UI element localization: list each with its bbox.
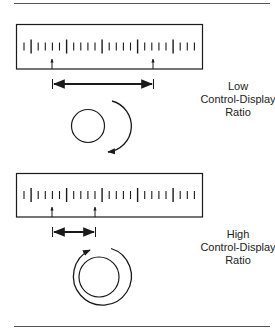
label-line: Ratio [193, 254, 275, 267]
rotation-arrow-icon [108, 101, 131, 152]
label-line: Low [193, 80, 275, 93]
low-ratio-label: Low Control-Display Ratio [193, 80, 275, 119]
high-ratio-scale-display [17, 174, 203, 218]
label-line: Ratio [193, 106, 275, 119]
high-ratio-travel-arrow [53, 227, 96, 237]
knob-circle [72, 110, 105, 143]
low-ratio-knob [72, 101, 132, 152]
scale-ticks [24, 188, 194, 202]
label-line: Control-Display [193, 93, 275, 106]
control-display-ratio-diagram [0, 0, 275, 329]
high-ratio-knob [73, 249, 131, 306]
knob-circle [79, 257, 119, 297]
low-ratio-scale-display [17, 25, 203, 70]
high-ratio-label: High Control-Display Ratio [193, 228, 275, 267]
low-ratio-travel-arrow [53, 79, 154, 89]
label-line: Control-Display [193, 241, 275, 254]
label-line: High [193, 228, 275, 241]
scale-ticks [24, 40, 194, 54]
